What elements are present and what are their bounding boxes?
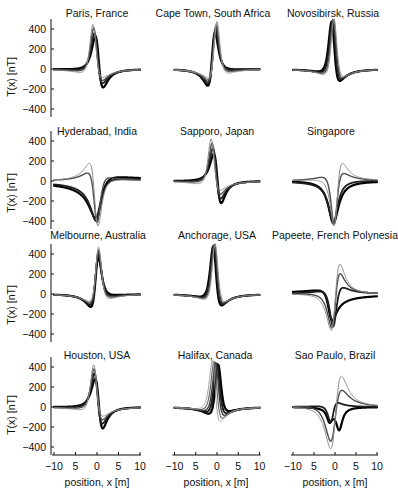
curve-s3 [54,373,140,423]
x-tick-label: −10 [284,460,302,472]
panel-title-papeete: Papeete, French Polynesia [272,230,398,241]
curve-s4 [54,177,140,218]
panel-title-halifax: Halifax, Canada [178,350,253,361]
y-tick-label: −400 [0,103,46,115]
panel-melbourne-australia [54,247,140,307]
x-axis-label-col-1: position, x [m] [65,477,130,488]
panel-title-houston: Houston, USA [64,350,131,361]
curve-s1 [293,376,377,448]
y-tick-label: −200 [0,195,46,207]
x-tick-label: 5 [235,460,241,472]
y-tick-label: 0 [0,63,46,75]
panel-title-melbourne: Melbourne, Australia [50,230,146,241]
y-tick-label: 200 [0,268,46,280]
x-tick-label: 0 [332,460,338,472]
y-tick-label: 200 [0,381,46,393]
x-tick-label: −10 [45,460,63,472]
x-tick-label: 0 [214,460,220,472]
panel-title-hyderabad: Hyderabad, India [57,126,137,137]
x-tick-label: 5 [73,460,79,472]
panel-title-singapore: Singapore [307,126,355,137]
panel-sao-paulo-brazil [293,376,377,448]
y-tick-label: 0 [0,175,46,187]
x-tick-label: −10 [166,460,184,472]
y-tick-label: 400 [0,23,46,35]
panel-houston-usa [54,365,140,428]
y-tick-label: −400 [0,328,46,340]
panel-title-sao-paulo: Sao Paulo, Brazil [295,350,376,361]
curve-s4 [175,29,260,83]
x-tick-label: 10 [371,460,383,472]
curve-s3 [175,148,260,198]
x-tick-label: 5 [116,460,122,472]
panel-title-novosibirsk: Novosibirsk, Russia [287,8,379,19]
panel-hyderabad-india [54,163,140,226]
y-tick-label: 400 [0,135,46,147]
panel-paris-france [54,25,140,88]
x-axis-label-col-3: position, x [m] [303,477,368,488]
panel-papeete-french-polynesia [293,264,377,330]
y-tick-label: 0 [0,288,46,300]
panel-novosibirsk-russia [293,19,377,81]
y-tick-label: −200 [0,421,46,433]
x-tick-label: 10 [254,460,266,472]
y-tick-label: −400 [0,441,46,453]
panel-halifax-canada [175,361,260,422]
panel-title-sapporo: Sapporo, Japan [180,126,254,137]
y-tick-label: 200 [0,43,46,55]
x-tick-label: 5 [353,460,359,472]
x-tick-label: 5 [193,460,199,472]
panel-cape-town-south-africa [175,21,260,85]
y-tick-label: −200 [0,308,46,320]
y-tick-label: −400 [0,215,46,227]
x-tick-label: 10 [134,460,146,472]
y-tick-label: 200 [0,155,46,167]
y-tick-label: 400 [0,361,46,373]
curve-s3 [175,26,260,81]
panel-title-paris: Paris, France [66,8,128,19]
y-tick-label: 400 [0,248,46,260]
panel-singapore [293,163,377,226]
curve-s1 [54,365,140,416]
panel-title-anchorage: Anchorage, USA [178,230,256,241]
panel-anchorage-usa [175,244,260,306]
x-tick-label: 5 [311,460,317,472]
x-tick-label: 0 [94,460,100,472]
panel-sapporo-japan [175,139,260,203]
x-axis-label-col-2: position, x [m] [184,477,249,488]
y-tick-label: 0 [0,401,46,413]
y-tick-label: −200 [0,83,46,95]
panel-title-cape-town: Cape Town, South Africa [156,8,271,19]
